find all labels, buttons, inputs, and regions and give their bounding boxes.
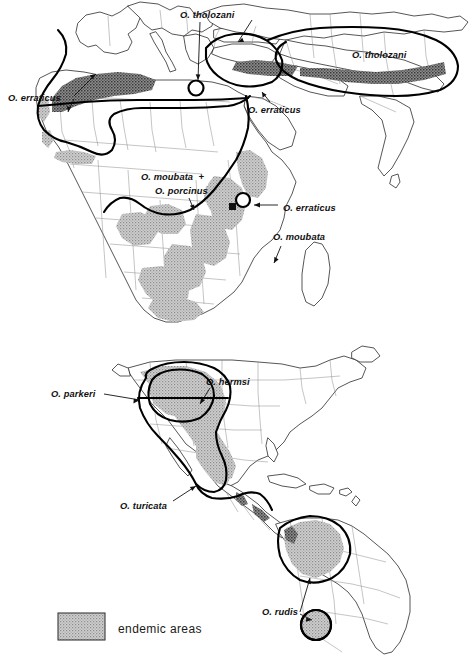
label-erraticus-middle-east: O. erraticus — [248, 105, 301, 115]
distribution-figure: O. tholozani O. tholozani O. erraticus O… — [0, 0, 471, 655]
label-hermsi: O. hermsi — [206, 377, 250, 387]
figure-canvas: O. tholozani O. tholozani O. erraticus O… — [0, 0, 471, 655]
range-circle-kenya — [236, 193, 250, 207]
label-parkeri: O. parkeri — [51, 389, 96, 399]
label-moubata: O. moubata + — [141, 172, 205, 182]
label-moubata-madagascar: O. moubata — [273, 232, 325, 242]
legend-label-endemic-areas: endemic areas — [118, 622, 202, 636]
label-rudis: O. rudis — [262, 607, 298, 617]
label-erraticus-northwest-africa: O. erraticus — [8, 93, 61, 103]
label-erraticus-east-africa: O. erraticus — [283, 203, 336, 213]
label-porcinus: O. porcinus — [155, 186, 208, 196]
label-turicata: O. turicata — [120, 501, 167, 511]
range-circle-levant — [189, 81, 204, 96]
point-marker-kenya — [229, 203, 236, 210]
legend-swatch-endemic — [58, 613, 105, 640]
label-tholozani-mediterranean: O. tholozani — [180, 10, 235, 20]
label-tholozani-asia: O. tholozani — [352, 50, 407, 60]
